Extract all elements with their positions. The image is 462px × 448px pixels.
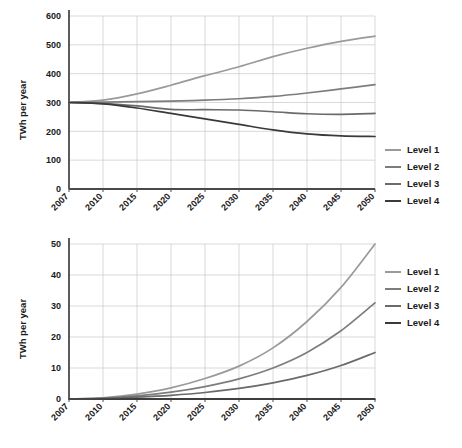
xtick-label: 2010 — [83, 401, 104, 422]
chart-bottom-ylabel: TWh per year — [17, 299, 28, 359]
legend-label-level-1: Level 1 — [407, 144, 440, 155]
xtick-label: 2035 — [253, 401, 274, 422]
legend-label-level-3: Level 3 — [407, 178, 439, 189]
xtick-label: 2007 — [49, 191, 70, 212]
ytick-label: 20 — [51, 332, 61, 342]
xtick-label: 2045 — [321, 191, 342, 212]
chart-top-series — [69, 36, 375, 136]
xtick-label: 2020 — [151, 191, 172, 212]
chart-top-legend: Level 1Level 2Level 3Level 4 — [385, 144, 440, 206]
chart-top-ylabel: TWh per year — [17, 80, 28, 140]
xtick-label: 2015 — [117, 191, 138, 212]
xtick-label: 2045 — [321, 401, 342, 422]
legend-label-level-1: Level 1 — [407, 266, 440, 277]
ytick-label: 0 — [56, 184, 61, 194]
ytick-label: 200 — [46, 127, 61, 137]
figure-page: 0100200300400500600 20072010201520202025… — [0, 0, 462, 448]
xtick-label: 2010 — [83, 191, 104, 212]
chart-bottom-ytick-labels: 01020304050 — [51, 239, 61, 404]
chart-top-ytick-labels: 0100200300400500600 — [46, 11, 61, 194]
chart-bottom-gridlines — [69, 244, 375, 399]
xtick-label: 2035 — [253, 191, 274, 212]
xtick-label: 2025 — [185, 401, 206, 422]
chart-bottom-xtick-labels: 2007201020152020202520302035204020452050 — [49, 401, 376, 422]
series-line-level-2 — [69, 303, 375, 399]
chart-top-svg: 0100200300400500600 20072010201520202025… — [0, 0, 462, 224]
xtick-label: 2015 — [117, 401, 138, 422]
chart-bottom-svg: 01020304050 2007201020152020202520302035… — [0, 224, 462, 448]
chart-bottom: 01020304050 2007201020152020202520302035… — [0, 224, 462, 448]
legend-label-level-3: Level 3 — [407, 300, 439, 311]
legend-label-level-4: Level 4 — [407, 317, 440, 328]
xtick-label: 2030 — [219, 191, 240, 212]
ytick-label: 0 — [56, 394, 61, 404]
ytick-label: 500 — [46, 40, 61, 50]
chart-bottom-axes — [69, 238, 375, 402]
legend-label-level-2: Level 2 — [407, 283, 439, 294]
ytick-label: 30 — [51, 301, 61, 311]
xtick-label: 2007 — [49, 401, 70, 422]
xtick-label: 2030 — [219, 401, 240, 422]
xtick-label: 2040 — [287, 401, 308, 422]
xtick-label: 2020 — [151, 401, 172, 422]
chart-top-axes — [69, 10, 375, 192]
chart-top: 0100200300400500600 20072010201520202025… — [0, 0, 462, 224]
series-line-level-3 — [69, 353, 375, 400]
ytick-label: 400 — [46, 69, 61, 79]
chart-top-xtick-labels: 2007201020152020202520302035204020452050 — [49, 191, 376, 212]
chart-bottom-legend: Level 1Level 2Level 3Level 4 — [385, 266, 440, 328]
xtick-label: 2050 — [355, 191, 376, 212]
legend-label-level-4: Level 4 — [407, 195, 440, 206]
series-line-level-1 — [69, 36, 375, 102]
legend-label-level-2: Level 2 — [407, 161, 439, 172]
series-line-level-2 — [69, 85, 375, 103]
ytick-label: 50 — [51, 239, 61, 249]
ytick-label: 100 — [46, 155, 61, 165]
series-line-level-1 — [69, 244, 375, 399]
ytick-label: 10 — [51, 363, 61, 373]
xtick-label: 2025 — [185, 191, 206, 212]
xtick-label: 2050 — [355, 401, 376, 422]
xtick-label: 2040 — [287, 191, 308, 212]
ytick-label: 300 — [46, 98, 61, 108]
ytick-label: 600 — [46, 11, 61, 21]
chart-bottom-series — [69, 244, 375, 399]
ytick-label: 40 — [51, 270, 61, 280]
